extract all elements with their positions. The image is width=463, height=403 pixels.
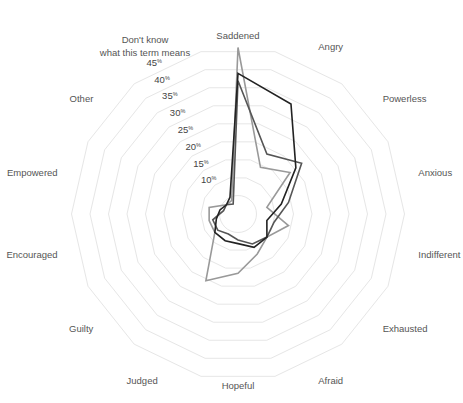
category-label: Empowered — [7, 167, 58, 178]
tick-label: 20% — [185, 141, 201, 152]
category-label: Hopeful — [222, 380, 255, 391]
category-label: Encouraged — [6, 249, 57, 260]
category-label: Judged — [127, 375, 158, 386]
category-label: Anxious — [418, 167, 452, 178]
tick-label: 10% — [201, 174, 217, 185]
series-line — [213, 81, 302, 244]
grid-ring — [220, 196, 257, 233]
tick-label: 35% — [162, 90, 178, 101]
tick-label: 30% — [170, 107, 186, 118]
radar-chart-svg: 10%15%20%25%30%35%40%45%SaddenedAngryPow… — [0, 0, 463, 403]
category-label: Guilty — [69, 323, 94, 334]
category-label: Don't know — [122, 34, 169, 45]
tick-label: 45% — [147, 57, 163, 68]
grid-ring — [183, 160, 294, 268]
category-label: Powerless — [383, 93, 427, 104]
tick-label: 40% — [154, 74, 170, 85]
grid-ring — [127, 106, 349, 322]
radar-chart: 10%15%20%25%30%35%40%45%SaddenedAngryPow… — [0, 0, 463, 403]
grid-ring — [90, 70, 386, 359]
category-label: Saddened — [216, 30, 259, 41]
category-label: Exhausted — [383, 323, 428, 334]
grid-ring — [164, 142, 312, 286]
category-labels: SaddenedAngryPowerlessAnxiousIndifferent… — [6, 30, 460, 391]
category-label: what this term means — [99, 47, 191, 58]
category-label: Afraid — [318, 375, 343, 386]
tick-label: 15% — [193, 158, 209, 169]
category-label: Other — [70, 93, 94, 104]
grid-ring — [146, 124, 331, 304]
tick-label: 25% — [178, 124, 194, 135]
category-label: Indifferent — [418, 249, 460, 260]
grid-ring — [109, 88, 368, 341]
category-label: Angry — [318, 41, 343, 52]
